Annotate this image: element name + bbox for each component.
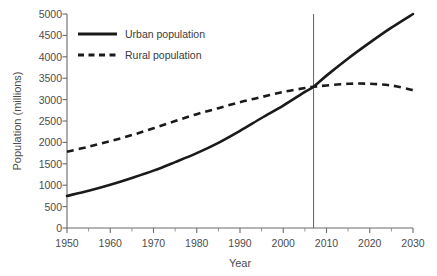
x-axis-title: Year — [229, 257, 252, 269]
legend-label-rural: Rural population — [125, 49, 202, 61]
chart-canvas: 5000 4500 4000 3500 3000 2500 2000 1500 … — [0, 0, 437, 276]
y-tick-label: 2000 — [39, 136, 63, 148]
y-tick-label: 1500 — [39, 158, 63, 170]
y-tick-labels: 5000 4500 4000 3500 3000 2500 2000 1500 … — [39, 8, 63, 234]
legend-label-urban: Urban population — [125, 28, 205, 40]
y-tick-label: 5000 — [39, 8, 63, 20]
y-tick-label: 2500 — [39, 115, 63, 127]
x-tick-label: 2000 — [272, 237, 296, 249]
y-tick-label: 1000 — [39, 179, 63, 191]
y-tick-label: 0 — [56, 222, 62, 234]
y-tick-label: 500 — [44, 201, 62, 213]
y-tick-label: 4000 — [39, 51, 63, 63]
x-tick-marks — [67, 228, 413, 233]
population-line-chart: 5000 4500 4000 3500 3000 2500 2000 1500 … — [0, 0, 437, 276]
x-tick-label: 1950 — [55, 237, 79, 249]
series-line-rural-population — [67, 84, 413, 152]
x-tick-labels: 1950 1960 1970 1980 1990 2000 2010 2020 … — [55, 237, 425, 249]
legend: Urban population Rural population — [78, 28, 205, 61]
x-tick-label: 1960 — [99, 237, 123, 249]
x-tick-label: 1980 — [185, 237, 209, 249]
x-tick-label: 2010 — [315, 237, 339, 249]
x-tick-label: 1970 — [142, 237, 166, 249]
x-tick-label: 1990 — [228, 237, 252, 249]
x-tick-label: 2020 — [358, 237, 382, 249]
y-tick-label: 3500 — [39, 72, 63, 84]
y-tick-label: 3000 — [39, 94, 63, 106]
series-line-urban-population — [67, 14, 413, 196]
x-tick-label: 2030 — [401, 237, 425, 249]
y-tick-label: 4500 — [39, 29, 63, 41]
y-axis-title: Population (millions) — [11, 71, 23, 170]
